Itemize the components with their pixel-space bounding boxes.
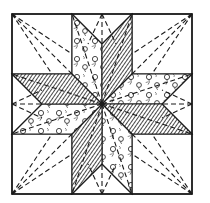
star-quilt-diagram: [0, 0, 210, 203]
center-point: [100, 102, 105, 107]
